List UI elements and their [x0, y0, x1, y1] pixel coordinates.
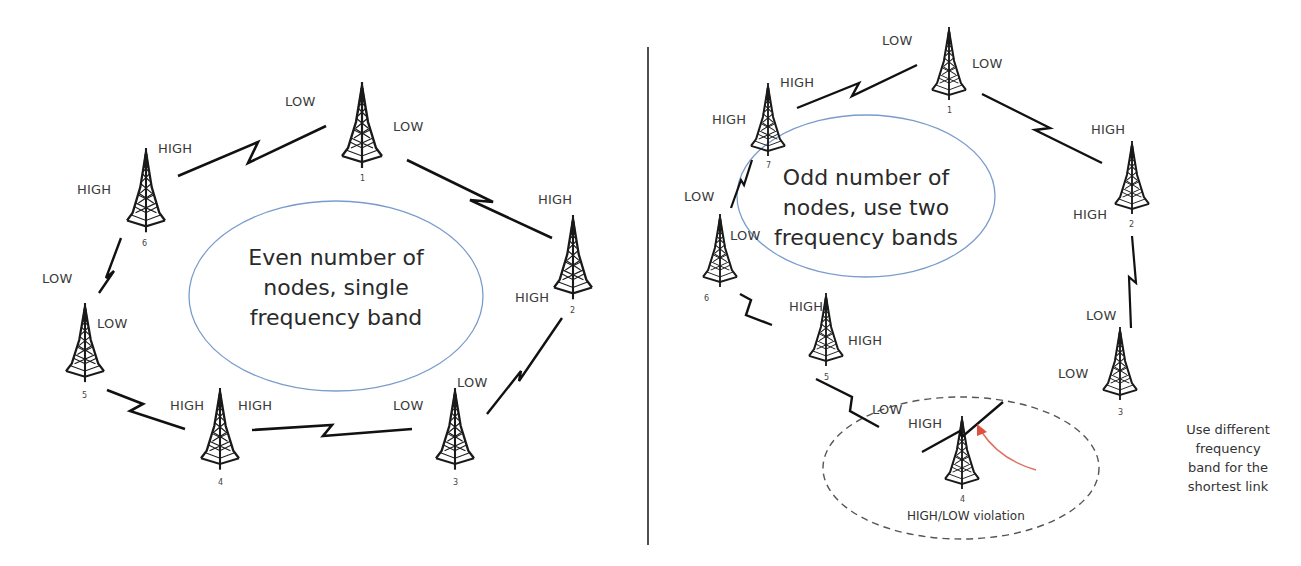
node-number: 7: [766, 161, 771, 170]
node-number: 1: [360, 174, 365, 183]
tower-icon: [751, 83, 785, 156]
band-label: LOW: [684, 189, 714, 204]
tower-icon: [703, 214, 737, 287]
link-7-6: [731, 160, 752, 208]
right-panel: [703, 27, 1149, 539]
title-line: Even number of: [236, 243, 436, 273]
band-label: LOW: [457, 375, 487, 390]
node-number: 3: [1118, 408, 1123, 417]
violation-label: HIGH/LOW violation: [907, 509, 1025, 523]
tower-icon: [1115, 141, 1149, 214]
band-label: HIGH: [908, 416, 942, 431]
tower-icon: [1103, 327, 1137, 400]
band-label: HIGH: [515, 290, 549, 305]
link-3-2: [487, 318, 562, 414]
title-line: frequency band: [236, 303, 436, 333]
band-label: HIGH: [1091, 122, 1125, 137]
diagram-canvas: Even number of nodes, single frequency b…: [0, 0, 1301, 566]
band-label: LOW: [42, 271, 72, 286]
link-1-2: [407, 160, 552, 238]
note-line: frequency: [1153, 439, 1301, 458]
node-number: 2: [570, 306, 575, 315]
band-label: HIGH: [77, 182, 111, 197]
band-label: HIGH: [238, 398, 272, 413]
title-line: frequency bands: [766, 223, 966, 253]
band-label: HIGH: [789, 299, 823, 314]
annotation-note: Use different frequency band for the sho…: [1153, 420, 1301, 496]
band-label: LOW: [730, 228, 760, 243]
node-number: 6: [704, 294, 709, 303]
left-panel-title: Even number of nodes, single frequency b…: [236, 243, 436, 333]
node-number: 3: [453, 478, 458, 487]
node-number: 5: [82, 391, 87, 400]
band-label: LOW: [393, 119, 423, 134]
link-6-5: [99, 238, 121, 293]
band-label: LOW: [1086, 308, 1116, 323]
band-label: HIGH: [780, 75, 814, 90]
note-line: shortest link: [1153, 477, 1301, 496]
link-1-2: [982, 94, 1102, 163]
link-2-3: [1129, 236, 1136, 328]
tower-icon: [66, 303, 104, 382]
node-number: 4: [218, 478, 223, 487]
link-7-1: [797, 65, 917, 108]
link-4-3: [252, 425, 412, 436]
tower-icon: [554, 215, 592, 299]
note-line: band for the: [1153, 458, 1301, 477]
node-number: 1: [947, 106, 952, 115]
tower-icon: [932, 27, 966, 100]
tower-icon: [436, 388, 474, 470]
annotation-arrow: [981, 431, 1036, 470]
band-label: HIGH: [170, 398, 204, 413]
band-label: LOW: [872, 402, 902, 417]
band-label: HIGH: [848, 333, 882, 348]
band-label: LOW: [393, 398, 423, 413]
node-number: 5: [824, 373, 829, 382]
band-label: HIGH: [538, 192, 572, 207]
tower-icon: [201, 388, 239, 470]
tower-icon: [127, 148, 165, 232]
link-5-4: [816, 379, 879, 427]
node-number: 6: [142, 239, 147, 248]
band-label: HIGH: [158, 141, 192, 156]
arrow-head-icon: [977, 424, 987, 436]
band-label: LOW: [1058, 366, 1088, 381]
band-label: LOW: [882, 33, 912, 48]
link-6-5: [740, 294, 772, 325]
band-label: HIGH: [1073, 207, 1107, 222]
tower-icon: [342, 82, 382, 168]
title-line: nodes, use two: [766, 193, 966, 223]
title-line: nodes, single: [236, 273, 436, 303]
right-panel-title: Odd number of nodes, use two frequency b…: [766, 163, 966, 253]
band-label: LOW: [97, 316, 127, 331]
title-line: Odd number of: [766, 163, 966, 193]
band-label: LOW: [285, 94, 315, 109]
link-6-1: [178, 126, 326, 176]
note-line: Use different: [1153, 420, 1301, 439]
node-number: 4: [960, 495, 965, 504]
band-label: LOW: [972, 56, 1002, 71]
node-number: 2: [1129, 220, 1134, 229]
band-label: HIGH: [712, 112, 746, 127]
diagram-graphics: [0, 0, 1301, 566]
